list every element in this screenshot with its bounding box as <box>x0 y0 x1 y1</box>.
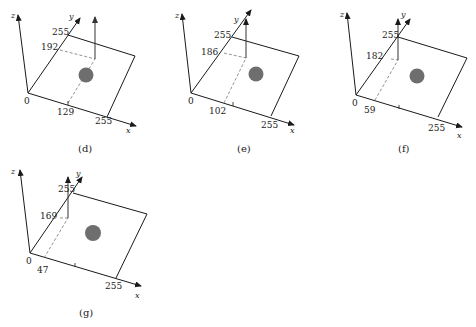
svg-text:z: z <box>10 11 16 20</box>
svg-text:0: 0 <box>188 96 194 106</box>
panel-f: z y x 255 182 0 59 255 (f) <box>315 0 476 162</box>
caption-e: (e) <box>237 143 251 154</box>
svg-text:x: x <box>135 291 140 300</box>
svg-text:255: 255 <box>58 184 75 194</box>
svg-text:255: 255 <box>95 116 112 126</box>
panel-e: z y x 255 186 0 102 255 (e) <box>160 0 320 162</box>
panel-g: z y x 255 169 0 47 255 (g) <box>0 160 160 327</box>
plane-outline <box>68 35 135 117</box>
coordinate-diagram-g: z y x 255 169 0 47 255 <box>0 160 160 305</box>
svg-text:z: z <box>174 11 180 20</box>
svg-text:102: 102 <box>209 106 226 116</box>
coordinate-diagram-f: z y x 255 182 0 59 255 <box>315 0 476 140</box>
svg-text:y: y <box>400 10 406 19</box>
svg-text:59: 59 <box>364 105 376 115</box>
svg-text:y: y <box>75 169 81 178</box>
svg-text:x: x <box>290 126 295 135</box>
svg-text:169: 169 <box>40 211 57 221</box>
svg-text:255: 255 <box>214 30 231 40</box>
svg-text:0: 0 <box>26 256 32 266</box>
svg-text:255: 255 <box>428 123 445 133</box>
caption-f: (f) <box>398 143 410 154</box>
svg-text:x: x <box>457 131 462 140</box>
svg-text:255: 255 <box>261 120 278 130</box>
svg-text:z: z <box>339 10 345 19</box>
panel-d: z y x 255 192 0 129 255 (d) <box>0 0 160 162</box>
z-axis <box>18 15 28 93</box>
disk <box>79 68 94 83</box>
svg-text:182: 182 <box>366 51 383 61</box>
svg-text:192: 192 <box>41 42 58 52</box>
coordinate-diagram-e: z y x 255 186 0 102 255 <box>160 0 320 140</box>
svg-text:0: 0 <box>24 96 30 106</box>
caption-d: (d) <box>78 143 92 154</box>
svg-text:255: 255 <box>105 281 122 291</box>
caption-g: (g) <box>79 307 93 318</box>
svg-text:255: 255 <box>52 27 69 37</box>
svg-text:129: 129 <box>57 107 74 117</box>
x-axis <box>28 93 136 126</box>
svg-text:186: 186 <box>201 47 218 57</box>
svg-text:0: 0 <box>352 98 358 108</box>
coordinate-diagram-d: z y x 255 192 0 129 255 <box>0 0 160 140</box>
svg-text:255: 255 <box>382 30 399 40</box>
svg-text:z: z <box>10 167 16 176</box>
svg-text:47: 47 <box>37 265 49 275</box>
svg-text:y: y <box>68 12 74 21</box>
svg-text:y: y <box>233 15 239 24</box>
svg-text:x: x <box>126 126 131 135</box>
